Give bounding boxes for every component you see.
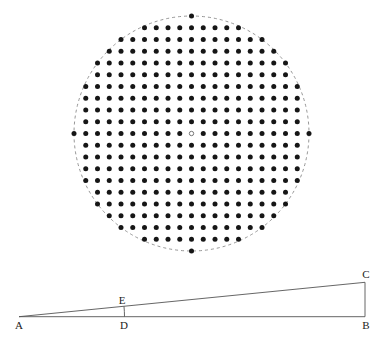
lattice-dot (248, 37, 253, 42)
lattice-dot (130, 119, 135, 124)
lattice-dot (213, 225, 218, 230)
lattice-dot (107, 49, 112, 54)
lattice-dot (189, 72, 194, 77)
lattice-dot (177, 155, 182, 160)
lattice-dot (166, 202, 171, 207)
lattice-dot (248, 155, 253, 160)
lattice-dot (107, 72, 112, 77)
lattice-dot (130, 61, 135, 66)
lattice-points (72, 14, 312, 254)
lattice-dot (236, 237, 241, 242)
lattice-dot (213, 202, 218, 207)
lattice-dot (271, 143, 276, 148)
lattice-dot (213, 178, 218, 183)
lattice-dot (201, 37, 206, 42)
lattice-dot (166, 190, 171, 195)
lattice-dot (142, 61, 147, 66)
lattice-dot (224, 166, 229, 171)
lattice-dot (236, 119, 241, 124)
lattice-dot (271, 190, 276, 195)
lattice-dot (95, 143, 100, 148)
lattice-dot (224, 190, 229, 195)
lattice-dot (224, 61, 229, 66)
lattice-dot (260, 190, 265, 195)
lattice-dot (154, 49, 159, 54)
lattice-dot (260, 143, 265, 148)
lattice-dot (248, 108, 253, 113)
lattice-dot (154, 37, 159, 42)
lattice-dot (213, 237, 218, 242)
lattice-dot (189, 84, 194, 89)
lattice-dot (177, 143, 182, 148)
lattice-dot (236, 202, 241, 207)
lattice-dot (248, 119, 253, 124)
lattice-dot (260, 178, 265, 183)
lattice-dot (189, 166, 194, 171)
lattice-dot (83, 155, 88, 160)
lattice-dot (271, 166, 276, 171)
lattice-dot (119, 166, 124, 171)
lattice-dot (119, 190, 124, 195)
lattice-dot (189, 25, 194, 30)
lattice-dot (142, 237, 147, 242)
lattice-dot (166, 213, 171, 218)
lattice-dot (213, 213, 218, 218)
lattice-dot (236, 49, 241, 54)
lattice-dot (213, 166, 218, 171)
lattice-dot (271, 119, 276, 124)
lattice-dot (154, 96, 159, 101)
diagram-canvas: A B C D E (0, 0, 384, 343)
lattice-dot (177, 202, 182, 207)
lattice-dot (107, 166, 112, 171)
lattice-dot (83, 178, 88, 183)
lattice-dot (95, 84, 100, 89)
lattice-dot (119, 72, 124, 77)
lattice-dot (224, 131, 229, 136)
lattice-dot (166, 178, 171, 183)
lattice-dot (166, 108, 171, 113)
lattice-dot (119, 155, 124, 160)
lattice-dot (107, 96, 112, 101)
lattice-dot (154, 213, 159, 218)
lattice-dot (271, 155, 276, 160)
lattice-dot (248, 96, 253, 101)
lattice-dot (154, 72, 159, 77)
lattice-dot (213, 25, 218, 30)
lattice-dot (119, 202, 124, 207)
lattice-dot (142, 166, 147, 171)
lattice-dot (130, 108, 135, 113)
lattice-dot (201, 190, 206, 195)
lattice-dot (283, 178, 288, 183)
lattice-dot (154, 202, 159, 207)
lattice-dot (201, 119, 206, 124)
lattice-dot (189, 237, 194, 242)
lattice-dot (166, 84, 171, 89)
lattice-dot (177, 108, 182, 113)
lattice-dot (189, 119, 194, 124)
lattice-dot (189, 14, 194, 19)
lattice-dot (260, 108, 265, 113)
lattice-dot (283, 72, 288, 77)
lattice-dot (130, 202, 135, 207)
lattice-dot (224, 49, 229, 54)
lattice-dot (177, 131, 182, 136)
lattice-dot (142, 37, 147, 42)
lattice-dot (283, 84, 288, 89)
lattice-dot (271, 72, 276, 77)
lattice-dot (224, 37, 229, 42)
lattice-dot (142, 225, 147, 230)
lattice-dot (107, 61, 112, 66)
lattice-dot (142, 143, 147, 148)
lattice-dot (248, 131, 253, 136)
lattice-dot (236, 108, 241, 113)
lattice-dot (142, 202, 147, 207)
lattice-dot (142, 72, 147, 77)
lattice-dot (72, 131, 77, 136)
lattice-dot (236, 143, 241, 148)
lattice-dot (236, 37, 241, 42)
lattice-dot (189, 37, 194, 42)
lattice-dot (271, 202, 276, 207)
lattice-dot (213, 37, 218, 42)
lattice-dot (295, 119, 300, 124)
lattice-dot (154, 61, 159, 66)
